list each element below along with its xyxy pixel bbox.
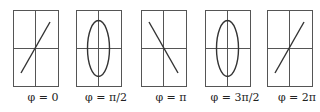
panel-phase-pi: φ = π <box>141 0 201 112</box>
panel-phase-3pi-over-2: φ = 3π/2 <box>205 0 265 112</box>
panel-phase-0: φ = 0 <box>13 0 73 112</box>
plot-line-positive <box>267 0 315 90</box>
panel-phase-2pi: φ = 2π <box>267 0 320 112</box>
plot-ellipse <box>76 0 124 90</box>
plot-line-positive <box>13 0 61 90</box>
plot-ellipse <box>205 0 253 90</box>
phase-label: φ = 2π <box>257 91 320 104</box>
plot-line-negative <box>141 0 189 90</box>
panel-phase-pi-over-2: φ = π/2 <box>76 0 136 112</box>
